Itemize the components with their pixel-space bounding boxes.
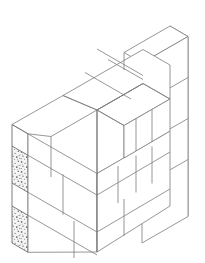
- isometric-drawing-canvas: [0, 0, 205, 263]
- left-wing-front-face: [28, 134, 97, 253]
- isometric-block-wall-figure: [0, 0, 205, 263]
